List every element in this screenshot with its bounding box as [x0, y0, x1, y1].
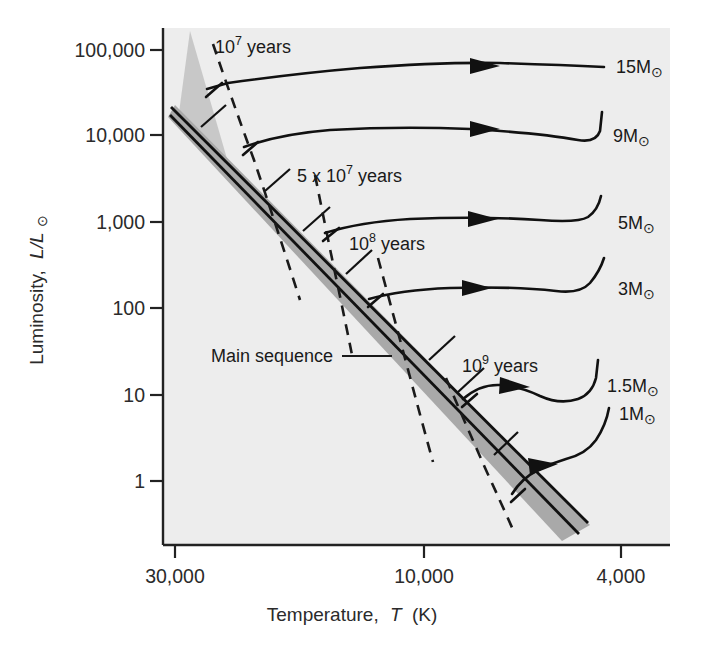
- mass-label-5msun-text: 5M: [618, 213, 643, 233]
- mass-label-15msun-text: 15M: [616, 57, 651, 77]
- x-axis-title: Temperature, T (K): [267, 604, 437, 625]
- y-tick-label-2: 1,000: [96, 211, 145, 233]
- iso-2-exp: 8: [369, 231, 376, 245]
- figure-page: 100,000 10,000 1,000 100 10 1 30,000 10,…: [0, 0, 706, 649]
- hr-diagram-figure: 100,000 10,000 1,000 100 10 1 30,000 10,…: [0, 0, 706, 649]
- isochrone-label-1e7: 107 years: [215, 34, 291, 57]
- mass-label-15msun-sub: ⊙: [651, 64, 663, 80]
- iso-1-exp: 7: [346, 163, 353, 177]
- iso-0-post: years: [242, 37, 291, 57]
- iso-3-base: 10: [462, 356, 482, 376]
- y-tick-label-4: 10: [123, 384, 145, 406]
- x-axis-title-unit: (K): [412, 604, 437, 625]
- mass-label-9msun-sub: ⊙: [638, 133, 650, 149]
- iso-2-base: 10: [349, 234, 369, 254]
- y-axis-title-main: Luminosity,: [26, 270, 47, 365]
- y-tick-label-1: 10,000: [85, 124, 145, 146]
- x-tick-label-0: 30,000: [145, 565, 205, 587]
- isochrone-label-1e9: 109 years: [462, 353, 538, 376]
- x-tick-label-2: 4,000: [597, 565, 646, 587]
- iso-2-post: years: [376, 234, 425, 254]
- mass-label-9msun-text: 9M: [613, 126, 638, 146]
- iso-3-exp: 9: [482, 353, 489, 367]
- iso-0-exp: 7: [235, 34, 242, 48]
- x-axis-title-main: Temperature,: [267, 604, 379, 625]
- mass-label-5msun-sub: ⊙: [643, 220, 655, 236]
- y-tick-label-5: 1: [134, 470, 145, 492]
- mass-label-1msun-text: 1M: [619, 404, 644, 424]
- plot-background: [163, 28, 670, 545]
- mass-label-3msun-text: 3M: [618, 279, 643, 299]
- y-tick-label-0: 100,000: [75, 39, 146, 61]
- mass-label-3msun-sub: ⊙: [643, 286, 655, 302]
- y-axis-title-sub: ⊙: [34, 215, 50, 227]
- y-axis-title-var: L/L: [26, 232, 47, 258]
- iso-1-pre: 5 x: [297, 166, 326, 186]
- iso-1-post: years: [353, 166, 402, 186]
- mass-label-1msun-sub: ⊙: [644, 411, 656, 427]
- mass-label-1p5msun-sub: ⊙: [647, 383, 659, 399]
- x-tick-label-1: 10,000: [394, 565, 454, 587]
- y-axis-title: Luminosity, L/L ⊙: [26, 215, 50, 365]
- iso-3-post: years: [489, 356, 538, 376]
- main-sequence-label: Main sequence: [211, 346, 333, 366]
- y-tick-label-3: 100: [112, 297, 145, 319]
- x-axis-title-var: T: [390, 604, 403, 625]
- mass-label-1p5msun-text: 1.5M: [607, 376, 647, 396]
- iso-0-base: 10: [215, 37, 235, 57]
- iso-1-base: 10: [326, 166, 346, 186]
- isochrone-label-1e8: 108 years: [349, 231, 425, 254]
